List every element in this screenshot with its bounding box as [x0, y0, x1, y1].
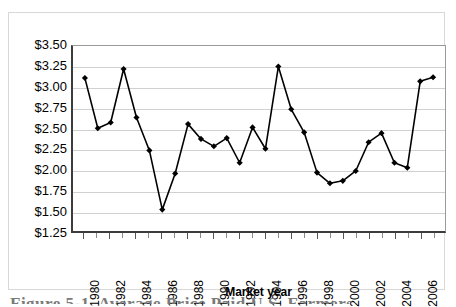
data-point-marker: [288, 106, 294, 112]
x-axis-tick: [239, 233, 240, 239]
x-axis-tick: [96, 233, 97, 238]
x-axis-tick: [148, 233, 149, 238]
y-axis-tick-label: $2.25: [9, 143, 67, 155]
y-axis-tick-label: $2.00: [9, 164, 67, 176]
x-axis-tick: [187, 233, 188, 239]
data-point-marker: [237, 160, 243, 166]
data-point-marker: [275, 64, 281, 70]
y-axis-tick-label: $3.00: [9, 81, 67, 93]
x-axis-tick: [109, 233, 110, 239]
x-axis-tick: [343, 233, 344, 239]
data-point-marker: [391, 160, 397, 166]
x-axis-tick: [304, 233, 305, 238]
y-axis-tick-label: $2.75: [9, 102, 67, 114]
y-axis-tick-label: $3.25: [9, 60, 67, 72]
x-axis-tick: [135, 233, 136, 239]
y-axis-tick-label: $1.75: [9, 185, 67, 197]
data-point-marker: [82, 75, 88, 81]
y-axis-labels: $3.50$3.25$3.00$2.75$2.50$2.25$2.00$1.75…: [9, 45, 67, 233]
data-point-marker: [146, 147, 152, 153]
plot-area: [71, 45, 446, 233]
x-axis-tick: [421, 233, 422, 239]
y-axis-tick-label: $3.50: [9, 39, 67, 51]
data-point-marker: [133, 114, 139, 120]
y-axis-tick-label: $2.50: [9, 123, 67, 135]
chart-frame: $3.50$3.25$3.00$2.75$2.50$2.25$2.00$1.75…: [8, 12, 445, 290]
series-line: [85, 67, 433, 210]
x-axis-tick: [369, 233, 370, 239]
x-axis-tick: [200, 233, 201, 238]
data-point-marker: [417, 78, 423, 84]
x-axis-tick: [408, 233, 409, 238]
y-axis-tick-label: $1.25: [9, 227, 67, 239]
figure-caption: Figure 5-1. Average Price Paid U.S. Farm…: [10, 294, 450, 304]
x-axis-tick: [174, 233, 175, 238]
data-point-marker: [108, 119, 114, 125]
x-axis-tick: [83, 233, 84, 239]
x-axis-labels: 1980198219841986198819901992199419961998…: [71, 240, 446, 286]
data-point-marker: [172, 170, 178, 176]
x-axis-tick: [265, 233, 266, 239]
x-axis-tick: [161, 233, 162, 239]
line-series: [73, 46, 445, 231]
x-axis-tick: [356, 233, 357, 238]
x-axis-tick: [278, 233, 279, 238]
x-axis-ticks: [71, 233, 446, 239]
x-axis-tick: [382, 233, 383, 238]
x-axis-tick: [291, 233, 292, 239]
x-axis-tick: [213, 233, 214, 239]
x-axis-tick: [226, 233, 227, 238]
data-point-marker: [95, 125, 101, 131]
x-axis-tick: [395, 233, 396, 239]
x-axis-tick: [434, 233, 435, 238]
data-point-marker: [301, 129, 307, 135]
data-point-marker: [404, 165, 410, 171]
x-axis-tick: [330, 233, 331, 238]
data-point-marker: [430, 74, 436, 80]
y-axis-tick-label: $1.50: [9, 206, 67, 218]
x-axis-tick: [122, 233, 123, 238]
x-axis-tick: [252, 233, 253, 238]
x-axis-tick: [317, 233, 318, 239]
data-point-marker: [159, 207, 165, 213]
data-point-marker: [121, 66, 127, 72]
